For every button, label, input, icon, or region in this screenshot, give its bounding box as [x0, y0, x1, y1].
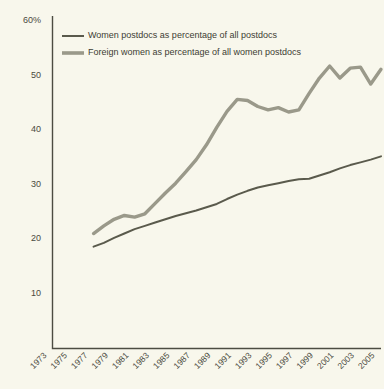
y-tick-label: 60% [23, 15, 41, 25]
y-tick-label: 30 [31, 179, 41, 189]
y-tick-label: 20 [31, 233, 41, 243]
y-tick-label: 10 [31, 288, 41, 298]
legend-label-foreign-women: Foreign women as percentage of all women… [88, 47, 302, 57]
chart-container: 60% 50 40 30 20 10 1973 1975 1977 1979 1… [0, 0, 384, 389]
y-tick-label: 40 [31, 124, 41, 134]
y-tick-label: 50 [31, 70, 41, 80]
chart-background [0, 0, 384, 389]
legend-label-women-postdocs: Women postdocs as percentage of all post… [88, 30, 277, 40]
line-chart: 60% 50 40 30 20 10 1973 1975 1977 1979 1… [0, 0, 384, 389]
